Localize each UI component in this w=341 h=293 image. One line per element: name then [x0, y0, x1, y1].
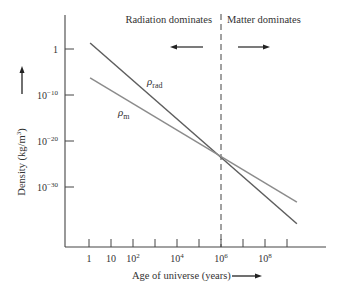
rho-rad-label: ρrad [146, 75, 163, 90]
y-tick-label: 1 [53, 44, 58, 55]
x-ticks: 110102104106108 [87, 239, 288, 264]
x-axis-arrow-icon [232, 274, 262, 279]
x-tick-label: 102 [126, 252, 140, 264]
x-axis-label: Age of universe (years) [132, 270, 231, 282]
rho-rad-line [90, 43, 297, 224]
y-tick-label: 10−20 [37, 135, 58, 147]
left-arrow-icon [170, 45, 203, 50]
x-tick-label: 1 [87, 253, 92, 264]
rho-m-line [90, 78, 297, 202]
rho-m-label: ρm [117, 106, 130, 121]
radiation-dominates-label: Radiation dominates [125, 14, 212, 25]
density-chart: 110−1010−2010−30 110102104106108 Radiati… [0, 0, 341, 293]
series-lines [90, 43, 297, 224]
y-tick-label: 10−10 [37, 89, 58, 101]
x-tick-label: 104 [170, 252, 184, 264]
matter-dominates-label: Matter dominates [227, 14, 301, 25]
x-tick-label: 106 [214, 252, 228, 264]
y-ticks: 110−1010−2010−30 [37, 44, 74, 193]
right-arrow-icon [238, 45, 270, 50]
x-tick-label: 10 [106, 253, 116, 264]
x-tick-label: 108 [258, 252, 272, 264]
y-axis-label: Density (kg/m3) [15, 128, 28, 196]
y-axis-arrow-icon [20, 66, 25, 94]
y-tick-label: 10−30 [37, 181, 58, 193]
